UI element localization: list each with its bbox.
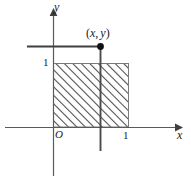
- marked-point-label: (x,y): [86, 27, 110, 39]
- x-tick-label-one: 1: [123, 130, 129, 141]
- figure-container: y x O 1 1 (x,y): [0, 0, 191, 180]
- marked-point-dot: [97, 43, 104, 50]
- x-axis-label: x: [177, 129, 182, 141]
- point-label-close-paren: ): [106, 26, 110, 40]
- unit-square-region: [54, 64, 129, 128]
- y-tick-label-one: 1: [43, 57, 49, 68]
- unit-square-hatch-fill: [54, 64, 129, 128]
- y-axis-label: y: [54, 1, 59, 13]
- origin-label: O: [55, 129, 63, 140]
